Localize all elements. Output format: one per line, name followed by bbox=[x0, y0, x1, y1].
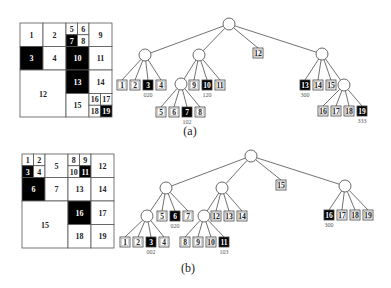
panel-a: 12567893410111213141516171819 1230204910… bbox=[20, 18, 367, 138]
grid-cell-label: 2 bbox=[53, 31, 57, 40]
grid-cell-label: 18 bbox=[91, 107, 99, 116]
leaf-label: 12 bbox=[212, 212, 220, 221]
tree-leaf-12: 12 bbox=[211, 211, 221, 221]
grid-cell-label: 18 bbox=[76, 232, 84, 241]
tree-leaf-6: 6020 bbox=[170, 211, 180, 229]
grid-cell-label: 6 bbox=[32, 185, 36, 194]
grid-cell-label: 8 bbox=[72, 156, 76, 165]
leaf-label: 12 bbox=[254, 49, 262, 58]
tree-leaf-3: 3020 bbox=[143, 80, 153, 98]
leaf-label: 4 bbox=[159, 81, 163, 90]
tree-leaf-5: 5 bbox=[157, 211, 167, 221]
tree-edge bbox=[148, 60, 161, 80]
tree-node-q1 bbox=[216, 182, 228, 194]
tree-edge bbox=[150, 193, 162, 211]
tree-a-leaves: 1230204910120115671028121330014151617181… bbox=[117, 48, 367, 125]
grid-cell-label: 7 bbox=[55, 185, 59, 194]
tree-edge bbox=[324, 60, 331, 80]
tree-leaf-10: 10 bbox=[206, 237, 216, 247]
tree-leaf-13: 13 bbox=[224, 211, 234, 221]
tree-node-q0-0 bbox=[141, 210, 153, 222]
tree-edge bbox=[151, 221, 164, 237]
tree-leaf-2: 2 bbox=[133, 237, 143, 247]
grid-cell-label: 15 bbox=[74, 101, 82, 110]
grid-cell-label: 13 bbox=[76, 185, 84, 194]
leaf-label: 19 bbox=[358, 107, 366, 116]
grid-cell-16: 16 bbox=[68, 201, 91, 225]
leaf-label: 15 bbox=[327, 81, 335, 90]
leaf-label: 8 bbox=[198, 108, 202, 117]
grid-cell-label: 17 bbox=[99, 209, 107, 218]
tree-node-q0 bbox=[160, 182, 172, 194]
tree-edge bbox=[122, 59, 141, 80]
grid-cell-label: 10 bbox=[70, 168, 78, 177]
leaf-label: 11 bbox=[216, 81, 223, 90]
tree-edge bbox=[172, 158, 246, 186]
grid-cell-label: 3 bbox=[30, 54, 34, 63]
tree-leaf-1: 1 bbox=[117, 80, 127, 90]
grid-cell-label: 16 bbox=[91, 95, 99, 104]
panel-b: 12345891011126713141516171819 1230024560… bbox=[22, 150, 373, 275]
leaf-code: 120 bbox=[203, 92, 212, 98]
tree-leaf-7: 7102 bbox=[182, 107, 192, 125]
grid-cell-label: 14 bbox=[97, 78, 105, 87]
grid-cell-label: 9 bbox=[83, 156, 87, 165]
grid-cell-label: 3 bbox=[26, 168, 30, 177]
grid-cell-6: 6 bbox=[22, 178, 45, 202]
grid-cell-label: 17 bbox=[102, 95, 110, 104]
grid-cell-16: 16 bbox=[89, 94, 101, 106]
grid-cell-label: 11 bbox=[97, 54, 105, 63]
tree-leaf-17: 17 bbox=[337, 210, 347, 220]
grid-cell-label: 4 bbox=[53, 54, 57, 63]
leaf-label: 3 bbox=[149, 238, 153, 247]
leaf-label: 10 bbox=[207, 238, 215, 247]
grid-cell-label: 11 bbox=[81, 168, 89, 177]
tree-node-q3-3 bbox=[338, 79, 350, 91]
tree-edge bbox=[135, 61, 143, 80]
grid-cell-4: 4 bbox=[34, 166, 46, 178]
grid-cell-19: 19 bbox=[91, 225, 114, 249]
tree-edge bbox=[183, 90, 187, 107]
tree-edge bbox=[329, 191, 342, 210]
tree-leaf-18: 18 bbox=[350, 210, 360, 220]
tree-leaf-15: 15 bbox=[326, 80, 336, 90]
grid-cell-11: 11 bbox=[80, 166, 92, 178]
leaf-label: 13 bbox=[225, 212, 233, 221]
leaf-code: 002 bbox=[147, 249, 156, 255]
tree-a-edges bbox=[122, 26, 362, 107]
leaf-label: 6 bbox=[172, 108, 176, 117]
tree-edge bbox=[256, 160, 281, 180]
leaf-label: 9 bbox=[196, 238, 200, 247]
grid-cell-label: 1 bbox=[30, 31, 34, 40]
leaf-label: 9 bbox=[192, 81, 196, 90]
tree-leaf-11: 11103 bbox=[219, 237, 229, 255]
grid-cell-label: 5 bbox=[70, 25, 74, 34]
tree-leaf-6: 6 bbox=[169, 107, 179, 117]
tree-edge bbox=[348, 90, 362, 106]
tree-edge bbox=[203, 60, 220, 80]
leaf-label: 11 bbox=[220, 238, 227, 247]
tree-leaf-9: 9 bbox=[193, 237, 203, 247]
tree-leaf-16: 16300 bbox=[324, 210, 334, 228]
grid-cell-17: 17 bbox=[91, 201, 114, 225]
grid-cell-label: 6 bbox=[81, 25, 85, 34]
tree-leaf-18: 18 bbox=[344, 106, 354, 116]
leaf-label: 16 bbox=[319, 107, 327, 116]
grid-a: 12567893410111213141516171819 bbox=[20, 23, 112, 117]
grid-cell-13: 13 bbox=[66, 70, 89, 94]
grid-cell-14: 14 bbox=[89, 70, 112, 94]
tree-edge bbox=[151, 26, 224, 53]
grid-cell-label: 15 bbox=[41, 221, 49, 230]
tree-node-q3 bbox=[339, 180, 351, 192]
grid-cell-label: 12 bbox=[99, 162, 107, 171]
tree-node-q3 bbox=[316, 48, 328, 60]
leaf-code: 300 bbox=[301, 92, 310, 98]
tree-edge bbox=[185, 220, 200, 237]
tree-node-root bbox=[223, 18, 235, 30]
tree-leaf-12: 12 bbox=[253, 48, 263, 58]
tree-leaf-13: 13300 bbox=[300, 80, 310, 98]
leaf-label: 14 bbox=[238, 212, 246, 221]
grid-cell-9: 9 bbox=[89, 23, 112, 47]
leaf-label: 4 bbox=[162, 238, 166, 247]
grid-cell-label: 5 bbox=[55, 162, 59, 171]
